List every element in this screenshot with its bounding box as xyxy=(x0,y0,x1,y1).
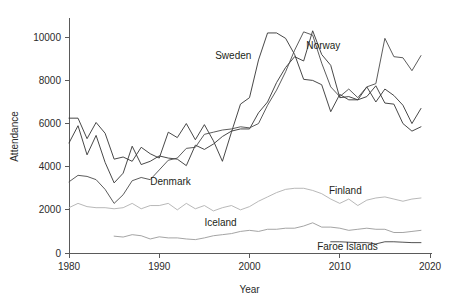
series-label-iceland: Iceland xyxy=(204,217,236,228)
y-tick-label: 4000 xyxy=(39,161,62,172)
series-line-iceland xyxy=(114,223,421,240)
series-label-finland: Finland xyxy=(329,185,362,196)
x-tick-label: 1980 xyxy=(58,261,81,272)
x-tick-label: 2020 xyxy=(419,261,442,272)
series-label-norway: Norway xyxy=(306,40,340,51)
y-tick-label: 2000 xyxy=(39,204,62,215)
chart-plot-area: 0200040006000800010000198019902000201020… xyxy=(0,0,456,301)
attendance-line-chart: 0200040006000800010000198019902000201020… xyxy=(0,0,456,301)
x-axis-title: Year xyxy=(239,284,260,295)
y-tick-label: 6000 xyxy=(39,118,62,129)
x-tick-label: 2000 xyxy=(238,261,261,272)
y-tick-label: 8000 xyxy=(39,75,62,86)
series-line-finland xyxy=(69,188,421,211)
y-axis-title: Attendance xyxy=(9,111,20,162)
y-tick-label: 0 xyxy=(55,248,61,259)
x-tick-label: 2010 xyxy=(329,261,352,272)
series-label-sweden: Sweden xyxy=(215,50,251,61)
x-tick-label: 1990 xyxy=(148,261,171,272)
series-label-denmark: Denmark xyxy=(150,176,192,187)
series-label-faroe-islands: Faroe Islands xyxy=(317,241,378,252)
y-tick-label: 10000 xyxy=(33,32,61,43)
